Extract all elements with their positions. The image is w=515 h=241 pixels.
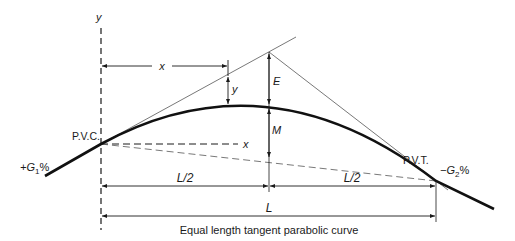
pvt-label: P.V.T.	[403, 154, 429, 166]
pvc-label: P.V.C.	[72, 130, 100, 142]
y-offset-label: y	[231, 83, 239, 95]
x-dimension-label: x	[158, 60, 165, 72]
half-length-left-label: L/2	[177, 171, 194, 185]
y-axis-label: y	[95, 11, 103, 23]
m-label: M	[272, 124, 282, 136]
grade-g1-label: +G1%	[20, 161, 49, 176]
half-length-right-label: L/2	[344, 171, 361, 185]
parabolic-curve-diagram: y x x y E M L/2 L/2 L P.V.C. P.V.T. +G1%…	[0, 0, 515, 241]
e-label: E	[273, 75, 281, 87]
chord-line	[101, 144, 436, 181]
grade-g2-label: −G2%	[440, 164, 469, 179]
back-tangent	[101, 37, 296, 144]
x-axis-label: x	[242, 138, 249, 150]
caption: Equal length tangent parabolic curve	[180, 224, 359, 236]
total-length-label: L	[266, 201, 273, 215]
